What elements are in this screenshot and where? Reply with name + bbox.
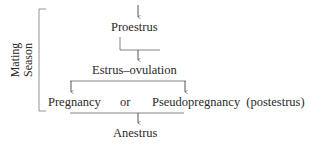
mating-season-bracket bbox=[39, 9, 46, 111]
mating-season-line2: Season bbox=[22, 35, 35, 85]
node-estrus-ovulation: Estrus–ovulation bbox=[92, 63, 177, 77]
node-pseudopregnancy: Pseudopregnancy (postestrus) bbox=[152, 95, 305, 109]
proestrus-connector bbox=[120, 37, 160, 50]
node-proestrus: Proestrus bbox=[111, 20, 158, 34]
node-pregnancy: Pregnancy bbox=[48, 95, 101, 109]
node-anestrus: Anestrus bbox=[113, 126, 157, 140]
mating-season-label: Mating Season bbox=[9, 35, 37, 85]
or-connector-word: or bbox=[120, 95, 130, 109]
